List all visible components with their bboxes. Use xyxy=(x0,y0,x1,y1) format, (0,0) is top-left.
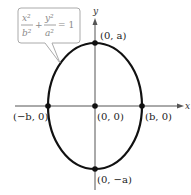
y-axis-arrow-icon xyxy=(93,18,98,25)
y-axis-label: y xyxy=(92,6,99,16)
point-top xyxy=(92,40,98,46)
label-left: (−b, 0) xyxy=(13,111,48,122)
x-axis-label: x xyxy=(185,101,190,111)
label-right: (b, 0) xyxy=(145,111,172,122)
ellipse-diagram: x y (0, a) (−b, 0) (0, 0) (b, 0) (0, −a)… xyxy=(0,0,191,195)
label-center: (0, 0) xyxy=(97,111,124,122)
eq-plus: + xyxy=(35,20,43,30)
point-right xyxy=(139,103,145,109)
eq-term1-num: x² xyxy=(22,13,31,23)
label-bottom: (0, −a) xyxy=(97,174,132,185)
point-bottom xyxy=(92,166,98,172)
eq-term1-den: b² xyxy=(22,28,32,38)
x-axis xyxy=(15,104,184,109)
point-center xyxy=(92,103,98,109)
eq-equals: = 1 xyxy=(58,20,74,30)
point-left xyxy=(45,103,51,109)
eq-term2-num: y² xyxy=(44,13,54,23)
label-top: (0, a) xyxy=(100,30,127,41)
equation-callout: x² b² + y² a² = 1 xyxy=(18,8,80,63)
x-axis-arrow-icon xyxy=(177,104,184,109)
eq-term2-den: a² xyxy=(45,28,54,38)
